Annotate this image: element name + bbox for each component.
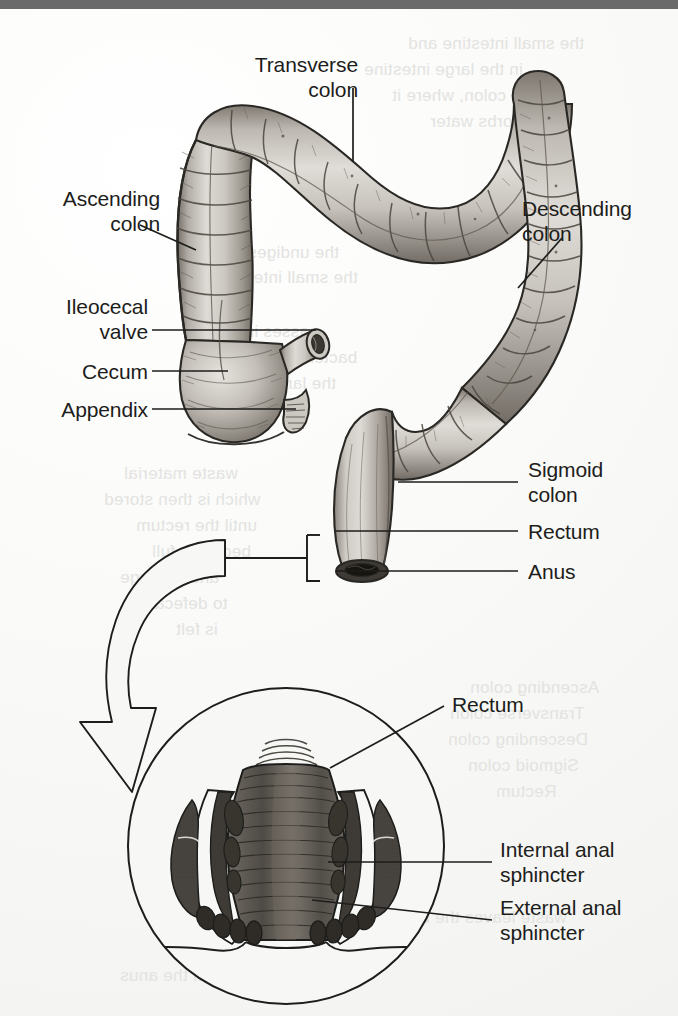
ascending-colon-shape	[177, 130, 254, 342]
label-ascending-colon: Ascending colon	[18, 186, 160, 236]
label-anus: Anus	[528, 559, 668, 584]
label-sigmoid-colon: Sigmoid colon	[528, 457, 668, 507]
anal-canal-inset	[112, 688, 460, 1004]
label-cecum: Cecum	[10, 359, 148, 384]
ileocecal-valve-shape	[280, 327, 332, 374]
label-transverse-colon: Transverse colon	[234, 52, 358, 102]
label-external-anal-sphincter: External anal sphincter	[500, 895, 676, 945]
label-ileocecal-valve: Ileocecal valve	[10, 294, 148, 344]
label-appendix: Appendix	[10, 397, 148, 422]
appendix-shape	[283, 390, 309, 433]
colon-illustration	[177, 71, 581, 582]
label-inset-rectum: Rectum	[452, 692, 602, 717]
label-rectum: Rectum	[528, 519, 668, 544]
label-descending-colon: Descending colon	[522, 196, 672, 246]
rectum-shape	[334, 409, 394, 572]
label-internal-anal-sphincter: Internal anal sphincter	[500, 837, 676, 887]
figure-page: the small intestine andin the large inte…	[0, 0, 678, 1016]
